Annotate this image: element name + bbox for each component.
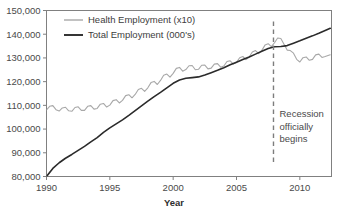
y-tick-label: 120,000 [6,76,40,87]
y-tick-label: 100,000 [6,123,40,134]
x-tick-label: 1995 [99,182,120,193]
x-tick-label: 2000 [163,182,184,193]
legend-label-health-employment: Health Employment (x10) [88,14,195,25]
y-tick-label: 110,000 [7,100,41,111]
x-tick-label: 1990 [36,182,57,193]
y-tick-label: 80,000 [11,171,40,182]
recession-annotation-line: officially [279,121,313,132]
x-tick-label: 2010 [289,182,310,193]
chart-canvas: 80,00090,000100,000110,000120,000130,000… [0,0,341,212]
recession-annotation-line: begins [279,133,307,144]
y-tick-label: 150,000 [6,5,40,16]
x-tick-label: 2005 [226,182,247,193]
y-tick-label: 130,000 [6,52,40,63]
employment-line-chart: 80,00090,000100,000110,000120,000130,000… [0,0,341,212]
legend-label-total-employment: Total Employment (000's) [88,29,195,40]
x-axis-title: Year [164,197,184,208]
recession-annotation-line: Recession [279,108,323,119]
y-tick-label: 140,000 [6,29,40,40]
y-tick-label: 90,000 [11,147,40,158]
